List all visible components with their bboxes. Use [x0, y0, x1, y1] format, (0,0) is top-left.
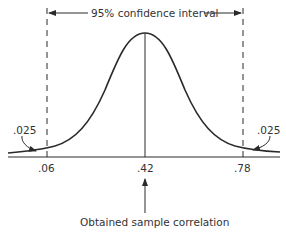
caption: Obtained sample correlation [80, 217, 229, 228]
tick-label-upper: .78 [234, 163, 251, 174]
sampling-distribution-curve [8, 33, 280, 153]
right-tail-pointer [253, 136, 270, 150]
tick-label-center: .42 [137, 163, 154, 174]
interval-title: 95% confidence interval [91, 8, 219, 19]
left-tail-label: .025 [13, 125, 36, 136]
right-tail-label: .025 [257, 125, 280, 136]
left-tail-pointer [22, 136, 36, 151]
confidence-interval-diagram [0, 0, 286, 236]
tick-label-lower: .06 [38, 163, 55, 174]
